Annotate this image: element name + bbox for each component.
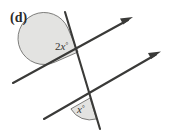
lower-angle-label-degree: °	[82, 104, 85, 112]
upper-angle-label-degree: °	[65, 41, 68, 49]
parallel-line-lower-shaft	[44, 55, 156, 120]
geometry-figure: 2x° x° (d)	[0, 0, 173, 133]
angle-sectors	[18, 12, 96, 119]
parallel-line-lower	[44, 52, 161, 120]
part-label: (d)	[10, 11, 27, 25]
